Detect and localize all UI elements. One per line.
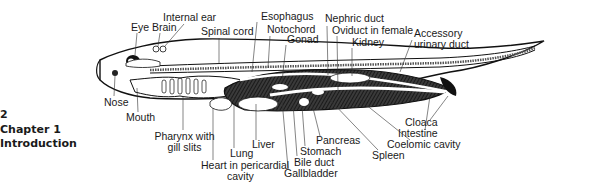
label-brain: Brain	[152, 22, 177, 33]
label-kidney: Kidney	[352, 37, 384, 48]
label-nephric-duct: Nephric duct	[325, 13, 384, 24]
label-accessory-urinary-duct-2: urinary duct	[414, 39, 469, 50]
label-intestine: Intestine	[398, 128, 438, 139]
label-gonad: Gonad	[287, 34, 319, 45]
label-esophagus: Esophagus	[261, 11, 314, 22]
label-internal-ear: Internal ear	[163, 12, 216, 23]
label-heart-2: cavity	[227, 171, 254, 182]
section-title: Introduction	[0, 137, 77, 150]
label-nose: Nose	[104, 97, 129, 108]
label-pharynx-2: gill slits	[152, 142, 217, 153]
label-spleen: Spleen	[372, 150, 405, 161]
label-oviduct: Oviduct in female	[332, 25, 413, 36]
label-bile-duct: Bile duct	[294, 157, 334, 168]
label-liver: Liver	[252, 139, 275, 150]
label-cloaca: Cloaca	[405, 117, 438, 128]
label-stomach: Stomach	[300, 146, 341, 157]
label-mouth: Mouth	[126, 112, 155, 123]
label-coelomic-cavity: Coelomic cavity	[387, 139, 461, 150]
label-spinal-cord: Spinal cord	[201, 26, 254, 37]
label-eye: Eye	[131, 22, 149, 33]
label-lung: Lung	[230, 148, 253, 159]
chapter-title: Chapter 1	[0, 123, 61, 136]
label-pancreas: Pancreas	[316, 135, 360, 146]
label-gallbladder: Gallbladder	[284, 168, 338, 179]
page-number: 2	[0, 108, 8, 121]
